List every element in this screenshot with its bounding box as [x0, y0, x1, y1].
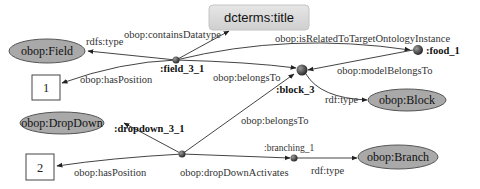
- instance-dot-icon: [179, 151, 186, 158]
- label-contains-datatype: obop:containsDatatype: [124, 29, 221, 40]
- class-node-obop-field[interactable]: obop:Field: [9, 39, 85, 63]
- literal-1-label: 1: [43, 81, 49, 95]
- datatype-node-dcterms-title[interactable]: dcterms:title: [209, 5, 309, 30]
- label-field-belongs-to: obop:belongsTo: [213, 72, 281, 83]
- literal-node-1[interactable]: 1: [32, 75, 60, 100]
- obop-dropdown-label: obop:DropDown: [21, 116, 102, 130]
- edge-dropdown-activates: [182, 154, 290, 158]
- instance-dot-icon: [297, 65, 308, 76]
- obop-block-label: obop:Block: [379, 93, 435, 107]
- literal-node-2[interactable]: 2: [26, 154, 54, 180]
- dcterms-title-label: dcterms:title: [224, 10, 294, 25]
- label-is-related: obop:isRelatedToTargetOntologyInstance: [275, 33, 450, 44]
- dropdown-3-1-label: :dropdown_3_1: [114, 123, 184, 134]
- food-1-label: :food_1: [426, 45, 460, 56]
- obop-field-label: obop:Field: [21, 44, 73, 58]
- instance-dot-icon: [291, 155, 298, 162]
- label-branching-rdf-type: rdf:type: [311, 165, 345, 176]
- instance-dot-icon: [413, 45, 423, 55]
- label-dropdown-activates: obop:dropDownActivates: [180, 167, 288, 178]
- edges: [57, 31, 413, 166]
- instance-node-branching-1[interactable]: :branching_1: [264, 143, 314, 162]
- label-dropdown-has-position: obop:hasPosition: [74, 167, 147, 178]
- branching-1-label: :branching_1: [264, 143, 314, 153]
- class-node-obop-branch[interactable]: obop:Branch: [358, 145, 438, 169]
- block-3-label: :block_3: [276, 84, 315, 95]
- label-block-rdf-type: rdf:type: [325, 94, 359, 105]
- label-field-has-position: obop:hasPosition: [80, 74, 153, 85]
- instance-node-block-3[interactable]: :block_3: [276, 65, 315, 96]
- ontology-graph: rdfs:type obop:containsDatatype obop:has…: [0, 0, 480, 189]
- label-model-belongs-to: obop:modelBelongsTo: [337, 65, 433, 76]
- field-3-1-label: :field_3_1: [160, 63, 204, 74]
- label-dropdown-belongs-to: obop:belongsTo: [241, 115, 309, 126]
- instance-node-food-1[interactable]: :food_1: [413, 45, 460, 56]
- instance-node-dropdown-3-1[interactable]: :dropdown_3_1: [114, 123, 186, 158]
- class-node-obop-dropdown[interactable]: obop:DropDown: [20, 112, 104, 134]
- label-rdfs-type: rdfs:type: [86, 36, 124, 47]
- edge-field-rdfs-type: [88, 51, 176, 60]
- literal-2-label: 2: [37, 161, 43, 175]
- obop-branch-label: obop:Branch: [367, 150, 429, 164]
- class-node-obop-block[interactable]: obop:Block: [368, 89, 446, 111]
- edge-dropdown-has-position: [57, 154, 182, 166]
